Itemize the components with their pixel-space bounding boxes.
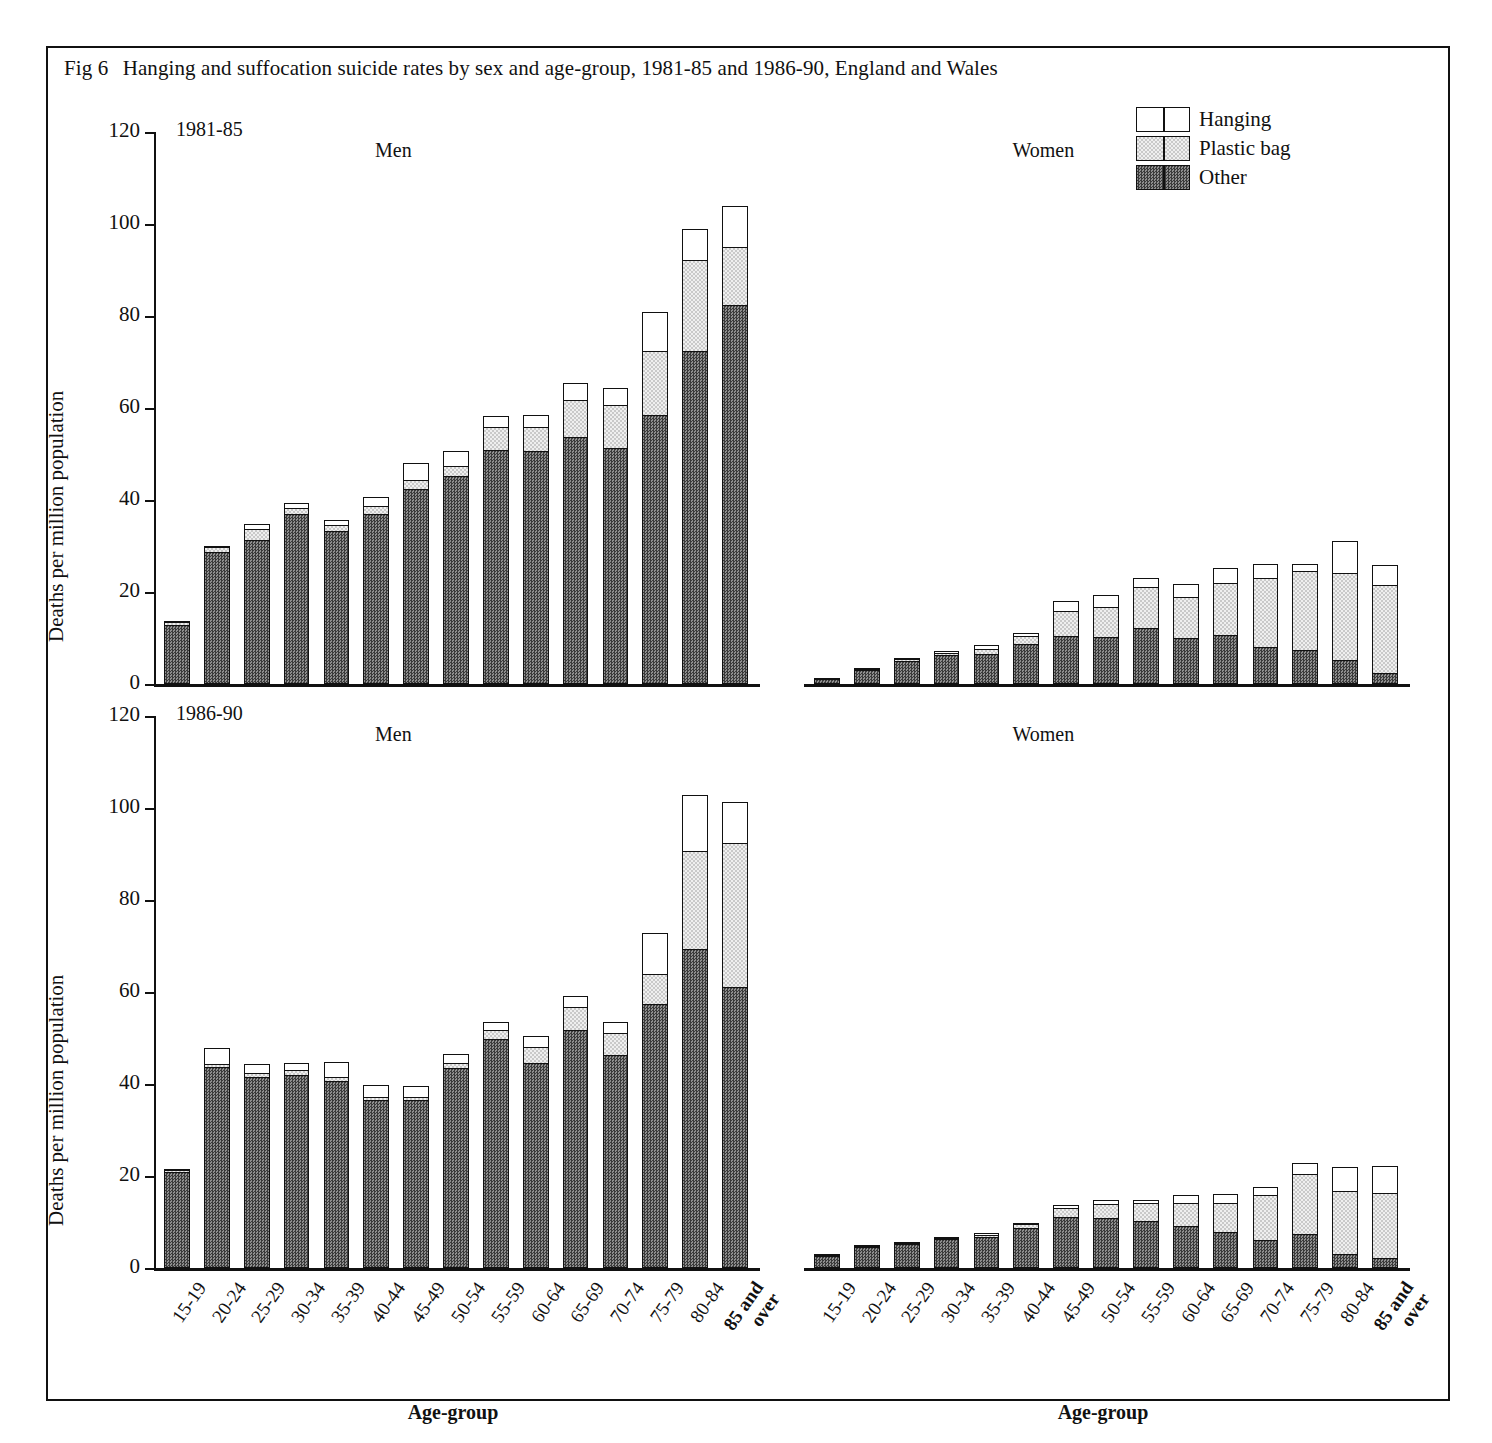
bar-segment-other [1133, 1221, 1159, 1268]
panel-women-1986-90: Women15-1920-2425-2930-3435-3940-4445-49… [48, 48, 1448, 1399]
bar-segment-plastic-bag [1093, 1204, 1119, 1219]
bar-segment-other [854, 1247, 880, 1268]
bar-segment-other [1332, 1254, 1358, 1268]
bar-segment-other [814, 1256, 840, 1268]
bar-85-and-over [1372, 1163, 1398, 1268]
bar-50-54 [1093, 1198, 1119, 1268]
x-axis-title: Age-group [1023, 1401, 1183, 1424]
bar-segment-plastic-bag [1213, 1203, 1239, 1234]
bar-segment-other [1173, 1226, 1199, 1268]
bar-segment-hanging [1372, 1166, 1398, 1195]
bar-segment-other [1013, 1228, 1039, 1268]
bar-segment-other [974, 1237, 1000, 1268]
bar-25-29 [894, 1241, 920, 1268]
bar-65-69 [1213, 1192, 1239, 1268]
bar-segment-plastic-bag [1332, 1191, 1358, 1255]
bar-segment-plastic-bag [1173, 1203, 1199, 1227]
bar-15-19 [814, 1254, 840, 1268]
bar-75-79 [1292, 1161, 1318, 1268]
bar-40-44 [1013, 1221, 1039, 1268]
bar-45-49 [1053, 1203, 1079, 1268]
bar-80-84 [1332, 1165, 1358, 1269]
bar-segment-other [1213, 1232, 1239, 1268]
figure-frame: Fig 6 Hanging and suffocation suicide ra… [46, 46, 1450, 1401]
bar-30-34 [934, 1235, 960, 1268]
bar-segment-other [1292, 1234, 1318, 1269]
bar-segment-plastic-bag [1133, 1203, 1159, 1222]
bar-segment-other [1253, 1240, 1279, 1268]
bar-segment-other [1372, 1258, 1398, 1268]
plot-area [804, 716, 1402, 1268]
x-axis-line [804, 1268, 1410, 1271]
bar-segment-plastic-bag [1253, 1195, 1279, 1241]
bar-60-64 [1173, 1193, 1199, 1268]
bar-20-24 [854, 1245, 880, 1268]
bar-segment-other [934, 1239, 960, 1268]
bar-70-74 [1253, 1185, 1279, 1268]
bar-segment-other [1053, 1217, 1079, 1268]
figure-page: Fig 6 Hanging and suffocation suicide ra… [0, 0, 1492, 1443]
x-axis-title: Age-group [373, 1401, 533, 1424]
bar-segment-plastic-bag [1292, 1174, 1318, 1234]
bar-segment-other [894, 1244, 920, 1268]
bar-segment-plastic-bag [1372, 1193, 1398, 1260]
bar-35-39 [974, 1231, 1000, 1268]
bar-segment-other [1093, 1218, 1119, 1268]
bar-segment-hanging [1332, 1167, 1358, 1192]
bar-55-59 [1133, 1198, 1159, 1268]
